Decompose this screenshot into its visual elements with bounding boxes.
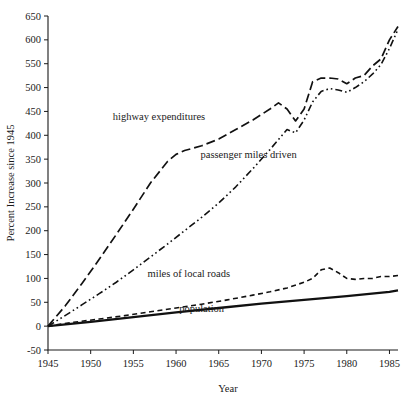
series-label-population: population	[179, 303, 225, 314]
x-tick-label: 1960	[166, 358, 187, 369]
y-tick-label: 500	[25, 82, 41, 93]
highway-statistics-chart: -500501001502002503003504004505005506006…	[0, 0, 411, 401]
y-tick-label: 350	[25, 154, 41, 165]
x-tick-label: 1975	[294, 358, 315, 369]
axis-lines	[48, 16, 398, 350]
x-tick-label: 1950	[80, 358, 101, 369]
y-tick-label: 0	[36, 321, 41, 332]
y-tick-label: 100	[25, 273, 41, 284]
y-tick-label: 400	[25, 130, 41, 141]
series-label-passenger-miles-driven: passenger miles driven	[200, 149, 297, 160]
series-line-highway-expenditures	[48, 27, 398, 327]
y-axis-ticks: -500501001502002503003504004505005506006…	[25, 11, 48, 356]
x-tick-label: 1965	[208, 358, 229, 369]
y-tick-label: 250	[25, 201, 41, 212]
series-annotations: highway expenditurespassenger miles driv…	[113, 111, 298, 314]
y-tick-label: 600	[25, 34, 41, 45]
x-tick-label: 1985	[379, 358, 400, 369]
y-tick-label: 50	[31, 297, 42, 308]
data-series-curves	[48, 27, 398, 327]
y-axis-title: Percent Increase since 1945	[5, 125, 16, 242]
series-line-passenger-miles-driven	[48, 29, 398, 326]
x-tick-label: 1980	[336, 358, 357, 369]
y-tick-label: 450	[25, 106, 41, 117]
y-tick-label: 550	[25, 58, 41, 69]
x-tick-label: 1945	[38, 358, 59, 369]
y-tick-label: 300	[25, 178, 41, 189]
y-tick-label: 200	[25, 225, 41, 236]
x-tick-label: 1955	[123, 358, 144, 369]
y-tick-label: 150	[25, 249, 41, 260]
y-tick-label: 650	[25, 11, 41, 22]
series-label-miles-of-local-roads: miles of local roads	[148, 268, 231, 279]
series-label-highway-expenditures: highway expenditures	[113, 111, 205, 122]
x-axis-title: Year	[218, 383, 238, 394]
chart-plot-area: -500501001502002503003504004505005506006…	[0, 0, 411, 401]
x-axis-ticks: 194519501955196019651970197519801985	[38, 350, 400, 369]
x-tick-label: 1970	[251, 358, 272, 369]
y-tick-label: -50	[27, 345, 41, 356]
